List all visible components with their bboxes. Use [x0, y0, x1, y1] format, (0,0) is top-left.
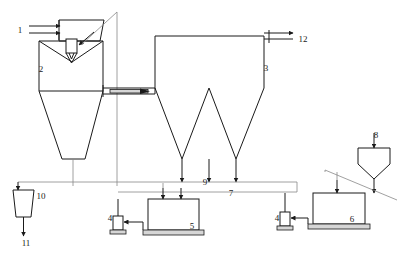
hopper-left-group	[13, 190, 34, 236]
inlet-feed-group	[29, 20, 60, 40]
label-8: 8	[374, 130, 379, 140]
pump-right-group	[277, 193, 308, 230]
inclined-conveyor-group	[325, 170, 397, 200]
label-7: 7	[229, 188, 234, 198]
line-lower	[118, 182, 297, 192]
label-2: 2	[39, 64, 44, 74]
pump-left-group	[110, 199, 143, 234]
gas-outlet-group	[264, 30, 293, 43]
tank-left-group	[143, 183, 204, 235]
baghouse-vessel-group	[155, 36, 264, 182]
pump-left-base	[110, 230, 126, 234]
process-flow-diagram: 1 2 3 4 5 4 6 7 8 9 10 11 12	[0, 0, 400, 255]
pump-left-body	[113, 216, 123, 230]
hopper-right-group	[358, 133, 390, 193]
label-1: 1	[18, 25, 23, 35]
tank-right-body	[313, 193, 365, 224]
spray-nozzle-inner	[69, 53, 74, 59]
baghouse-bottom-zigzag	[155, 88, 264, 159]
hopper-left-body	[13, 190, 34, 217]
label-10: 10	[37, 191, 47, 201]
tank-right-base	[308, 224, 370, 229]
label-6: 6	[350, 214, 355, 224]
label-4-left: 4	[108, 213, 113, 223]
label-11: 11	[22, 238, 31, 248]
nozzle-feed-arrow	[79, 32, 94, 45]
connecting-duct-group	[103, 85, 155, 97]
reactor-bottom-cone	[39, 91, 103, 159]
spray-nozzle-body	[66, 39, 77, 53]
baghouse-body	[155, 36, 264, 88]
pump-right-body	[280, 212, 290, 226]
tank-right-group	[308, 172, 370, 229]
line-upper-group	[18, 182, 297, 190]
diagram-canvas: 1 2 3 4 5 4 6 7 8 9 10 11 12	[0, 0, 400, 255]
inclined-conveyor-belt	[325, 170, 397, 200]
pump-right-base	[277, 226, 293, 230]
tank-left-base	[143, 230, 204, 235]
hopper-right-body	[358, 148, 390, 179]
label-9: 9	[203, 177, 208, 187]
slurry-supply-diagonal	[82, 12, 117, 44]
label-5: 5	[190, 221, 195, 231]
label-4-right: 4	[275, 213, 280, 223]
label-3: 3	[264, 63, 269, 73]
line-lower-group	[118, 182, 297, 192]
label-12: 12	[299, 34, 308, 44]
